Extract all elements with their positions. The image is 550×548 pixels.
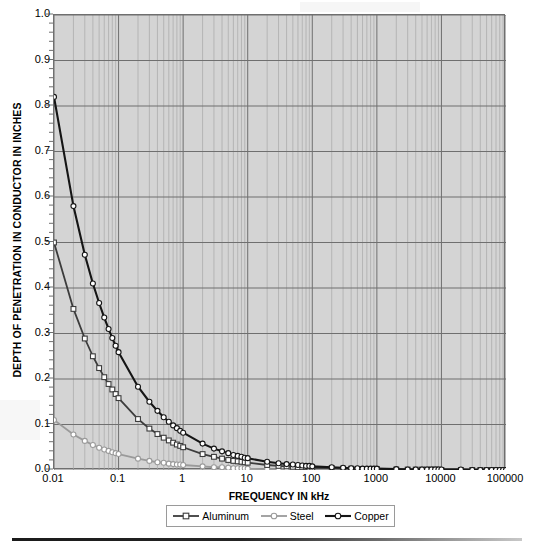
legend-label: Steel xyxy=(290,511,314,522)
legend: AluminumSteelCopper xyxy=(166,505,395,527)
x-axis-tick-labels: 0.010.1110100100010000100000 xyxy=(0,473,550,489)
skin-depth-chart: 0.00.10.20.30.40.50.60.70.80.91.0 DEPTH … xyxy=(0,0,550,548)
plot-area xyxy=(53,14,505,469)
x-axis-title: FREQUENCY IN kHz xyxy=(53,490,505,502)
y-axis-title: DEPTH OF PENETRATION IN CONDUCTOR IN INC… xyxy=(11,90,23,390)
y-axis-minor-ticks xyxy=(44,0,54,548)
legend-entry-steel: Steel xyxy=(260,511,314,522)
legend-swatch-steel xyxy=(260,511,288,521)
legend-swatch-copper xyxy=(324,511,352,521)
page-divider-rule xyxy=(12,538,522,541)
legend-entry-aluminum: Aluminum xyxy=(172,511,249,522)
legend-label: Copper xyxy=(354,511,388,522)
legend-entry-copper: Copper xyxy=(324,511,388,522)
plot-canvas xyxy=(54,15,506,470)
scan-artifact xyxy=(300,2,420,12)
x-tick-label: 100000 xyxy=(465,473,545,484)
legend-label: Aluminum xyxy=(202,511,249,522)
legend-swatch-aluminum xyxy=(172,511,200,521)
legend-entries: AluminumSteelCopper xyxy=(167,506,394,526)
